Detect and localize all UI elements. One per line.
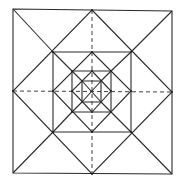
diagonal-tl [13, 9, 53, 52]
diagonal-l4-bl [72, 102, 82, 112]
nested-squares-diagram [0, 0, 180, 185]
diagonal-tr [131, 11, 172, 52]
diagonal-l2-tr [111, 52, 131, 71]
diagonal-l2-bl [53, 112, 72, 132]
diagonal-l4-tl [72, 71, 82, 81]
diagonal-br [131, 132, 172, 174]
diagonal-l2-br [111, 112, 131, 132]
diagonal-bl [13, 132, 53, 173]
diagonal-l2-tl [53, 52, 72, 71]
diagonal-l4-tr [101, 71, 111, 81]
diagonal-l4-br [101, 102, 111, 112]
dashed-horizontal-midline [13, 91, 172, 92]
